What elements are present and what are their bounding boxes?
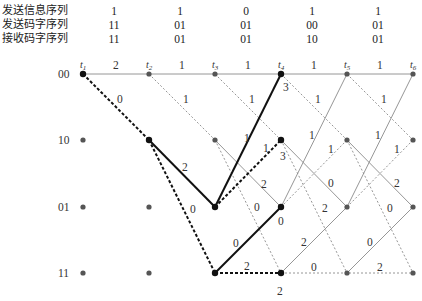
label-t4-01-00: 1 xyxy=(309,129,315,141)
node-t5-10 xyxy=(344,137,349,142)
node-t5-01 xyxy=(344,204,349,209)
time-label-t4: t4 xyxy=(278,59,285,72)
time-label-t3: t3 xyxy=(212,59,219,72)
node-t4-00 xyxy=(278,71,284,77)
label-t5-10-11: 0 xyxy=(387,202,393,214)
node-t6-10 xyxy=(410,137,415,142)
label-t5-11-01: 0 xyxy=(367,236,373,248)
label-t3-10-11: 0 xyxy=(254,201,260,213)
label-t4-10-01: 0 xyxy=(328,177,334,189)
label-t2-10-11: 0 xyxy=(190,203,196,215)
label-t1-00-10: 0 xyxy=(117,93,123,105)
label-t3-01-00: 1 xyxy=(244,132,250,144)
node-t6-00 xyxy=(410,71,415,76)
label-t5-01-10: 1 xyxy=(394,143,400,155)
node-t6-11 xyxy=(410,270,415,275)
time-label-t5: t5 xyxy=(344,59,351,72)
branch-t2-00-10 xyxy=(149,74,215,140)
label-t4-01-10: 1 xyxy=(328,143,334,155)
branch-t4-10-11 xyxy=(281,140,347,273)
label-t3-10-01: 2 xyxy=(261,178,267,190)
label-t4-00-10: 1 xyxy=(315,93,321,105)
label-t3-01-10: 1 xyxy=(263,142,269,154)
node-t3-01 xyxy=(212,204,218,210)
state-label-11: 11 xyxy=(58,267,69,279)
node-t1-10 xyxy=(80,137,85,142)
label-t3-00-10: 1 xyxy=(249,93,255,105)
node-t1-00 xyxy=(80,71,86,77)
node-t4-11 xyxy=(278,270,284,276)
node-t1-01 xyxy=(80,204,85,209)
metric-t4-00: 3 xyxy=(283,81,289,93)
label-t5-01-00: 1 xyxy=(375,129,381,141)
time-label-t6: t6 xyxy=(410,59,417,72)
time-label-t1: t1 xyxy=(80,59,86,72)
label-t5-00-10: 1 xyxy=(381,93,387,105)
label-t5-11-11: 2 xyxy=(377,261,383,273)
label-t1-00-00: 2 xyxy=(113,59,119,71)
label-t5-00-00: 1 xyxy=(377,59,383,71)
state-label-10: 10 xyxy=(58,134,70,146)
label-t4-10-11: 2 xyxy=(322,202,328,214)
label-t3-11-11: 2 xyxy=(244,260,250,272)
node-t6-01 xyxy=(410,204,415,209)
label-t2-00-10: 1 xyxy=(183,93,189,105)
node-t3-10 xyxy=(212,137,217,142)
survivor-t2-10-11 xyxy=(149,140,215,273)
label-t4-00-00: 1 xyxy=(311,59,317,71)
node-t1-11 xyxy=(80,270,85,275)
time-label-t2: t2 xyxy=(146,59,153,72)
metric-t4-10: 3 xyxy=(280,150,286,162)
survivor-t2-10-01 xyxy=(149,140,215,207)
node-t3-00 xyxy=(212,71,217,76)
branch-t4-10-01 xyxy=(281,140,347,207)
survivor-t1-00-10 xyxy=(83,74,149,140)
node-t5-11 xyxy=(344,270,349,275)
edge-labels: 2 1 1 1 1 0 1 2 0 1 1 1 2 0 0 2 3 3 0 2 … xyxy=(113,59,400,297)
label-t2-00-00: 1 xyxy=(179,59,185,71)
node-t4-01 xyxy=(278,204,284,210)
label-t3-11-01: 0 xyxy=(233,237,239,249)
label-t4-11-11: 0 xyxy=(311,261,317,273)
state-label-00: 00 xyxy=(58,68,70,80)
label-t5-10-01: 2 xyxy=(394,177,400,189)
node-t2-01 xyxy=(146,204,151,209)
state-label-01: 01 xyxy=(58,201,70,213)
node-t2-11 xyxy=(146,270,151,275)
node-t3-11 xyxy=(212,270,218,276)
node-t2-00 xyxy=(146,71,151,76)
metric-t4-01: 0 xyxy=(278,215,284,227)
label-t2-10-01: 2 xyxy=(182,161,188,173)
node-t2-10 xyxy=(146,137,152,143)
branch-t5-10-11 xyxy=(347,140,413,273)
trellis-diagram: 00 10 01 11 t1 t2 t3 t4 t5 t6 xyxy=(0,0,422,301)
label-t3-00-00: 1 xyxy=(245,59,251,71)
branch-t3-10-11 xyxy=(215,140,281,273)
node-t4-10 xyxy=(278,137,284,143)
node-t5-00 xyxy=(344,71,349,76)
branch-t3-00-10 xyxy=(215,74,281,140)
metric-t4-11: 2 xyxy=(277,285,283,297)
label-t4-11-01: 2 xyxy=(301,236,307,248)
branch-t5-10-01 xyxy=(347,140,413,207)
